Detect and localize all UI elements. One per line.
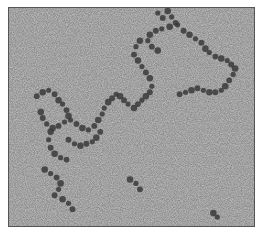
particle [127,176,134,183]
particle [60,102,65,107]
particle [44,121,49,126]
particle [56,187,61,192]
particle [66,201,71,206]
particle [62,119,67,124]
particle [52,91,58,97]
particle [186,31,193,38]
particle [188,87,195,94]
particle [48,145,54,151]
particle [160,15,166,21]
particle [72,141,77,146]
particle [57,180,64,187]
particle [51,150,58,157]
particle [137,37,144,44]
particle [206,89,213,96]
micrograph-image [8,7,255,227]
particle [155,10,160,15]
particle [219,88,224,93]
particle [135,57,142,64]
particle [91,123,97,129]
particle [231,72,236,77]
particle [40,115,46,121]
particle [212,89,218,95]
particle [169,14,174,19]
particle [139,64,144,69]
particle [147,75,154,82]
particle [47,129,54,136]
particle [183,90,188,95]
particle [137,186,143,192]
particle [97,129,103,135]
particle [199,40,205,46]
particle [133,181,138,186]
particle [218,55,225,62]
particle [143,69,149,75]
particle [175,22,180,27]
particle [139,98,144,103]
particle [56,123,62,129]
particle [207,50,212,55]
particle [201,88,206,93]
particle [66,137,72,143]
particle [145,38,150,43]
particle [83,141,89,147]
particle [68,117,73,122]
particle [95,117,102,124]
particle [70,206,76,212]
particle [114,92,119,97]
particle [39,89,46,96]
particle [212,54,218,60]
particle [195,85,201,91]
particle [86,127,91,132]
particle [64,107,70,113]
particle [232,65,239,72]
particle [147,31,154,38]
particle [46,88,51,93]
particle [37,109,44,116]
particle [77,142,84,149]
particle [215,215,220,220]
particle [131,52,137,58]
particle [125,102,130,107]
particle [58,155,63,160]
particle [74,121,80,127]
particle [64,157,70,163]
particle [166,24,173,31]
particle [159,26,164,31]
particle [34,93,40,99]
particle [193,36,198,41]
particle [164,8,171,14]
particle [181,28,187,34]
particle [90,139,95,144]
particle [153,28,159,34]
particle [54,175,60,181]
particle [177,91,183,97]
particle [105,99,112,106]
particle [149,84,154,89]
particle [79,125,86,132]
particle [133,44,138,49]
particle [131,105,138,112]
particle [149,44,155,50]
particle [52,192,58,198]
micrograph-canvas [9,8,254,226]
particle [155,47,162,54]
particle [226,77,232,83]
particle [225,58,230,63]
particle [100,111,105,116]
particle [102,106,107,111]
grain-texture [9,8,254,226]
particle [59,196,66,203]
particle [48,171,53,176]
particle [41,166,48,173]
particle [46,137,51,142]
